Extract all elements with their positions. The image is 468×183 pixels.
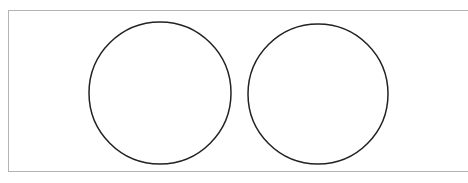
right-circle xyxy=(248,24,388,164)
left-circle xyxy=(89,22,231,164)
